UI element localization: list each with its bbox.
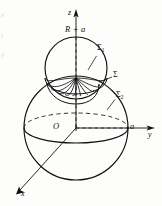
leader-line-sigma-2 bbox=[107, 100, 115, 111]
surface-label-sigma-2: Σ2 bbox=[116, 91, 124, 101]
leader-line-sigma-1 bbox=[88, 56, 97, 70]
axis-group bbox=[16, 9, 155, 195]
sigma-symbol: Σ bbox=[113, 70, 118, 79]
surface-label-sigma-1: Σ1 bbox=[97, 44, 105, 54]
surface-label-sigma: Σ bbox=[113, 71, 118, 81]
sigma-1-symbol: Σ bbox=[97, 43, 102, 52]
z-top-value-label: R + a bbox=[65, 25, 85, 34]
x-axis-line bbox=[20, 128, 76, 190]
sigma-2-subscript: 2 bbox=[121, 94, 124, 100]
margin-fragment: ƒ bbox=[1, 52, 5, 59]
y-axis-label: y bbox=[148, 131, 152, 139]
origin-label: O bbox=[53, 122, 59, 131]
y-intercept-label: a bbox=[130, 122, 134, 131]
z-axis-label: z bbox=[68, 9, 71, 17]
x-axis-label: x bbox=[21, 190, 25, 198]
margin-fragment: t bbox=[1, 33, 3, 40]
figure-container: z y x R + a O a Σ1 Σ Σ2 s t ƒ bbox=[0, 0, 162, 206]
sigma-1-subscript: 1 bbox=[102, 47, 105, 53]
margin-fragment: s bbox=[1, 12, 4, 19]
sigma-2-symbol: Σ bbox=[116, 90, 121, 99]
